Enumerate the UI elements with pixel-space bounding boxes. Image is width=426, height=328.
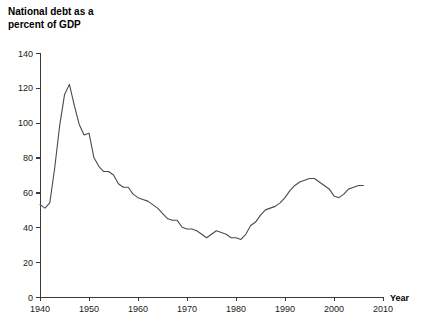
- x-tick-label-2000: 2000: [324, 304, 344, 314]
- y-tick-label-140: 140: [18, 49, 33, 59]
- debt-series-line: [40, 84, 363, 239]
- y-tick-label-0: 0: [28, 293, 33, 303]
- y-tick-label-20: 20: [23, 258, 33, 268]
- y-tick-label-80: 80: [23, 153, 33, 163]
- x-tick-label-1980: 1980: [226, 304, 246, 314]
- y-tick-label-60: 60: [23, 188, 33, 198]
- x-tick-label-1940: 1940: [30, 304, 50, 314]
- chart-figure: National debt as a percent of GDP 020406…: [0, 0, 426, 328]
- x-tick-label-1990: 1990: [275, 304, 295, 314]
- y-axis-tick-labels: 020406080100120140: [18, 49, 33, 303]
- x-tick-label-2010: 2010: [373, 304, 393, 314]
- x-tick-label-1950: 1950: [79, 304, 99, 314]
- x-axis-tick-labels: 19401950196019701980199020002010: [30, 304, 393, 314]
- y-tick-label-40: 40: [23, 223, 33, 233]
- line-chart-plot: 020406080100120140 194019501960197019801…: [0, 0, 426, 328]
- y-tick-label-100: 100: [18, 118, 33, 128]
- y-tick-label-120: 120: [18, 83, 33, 93]
- x-axis-title: Year: [390, 293, 410, 303]
- x-axis: 19401950196019701980199020002010 Year: [30, 293, 410, 314]
- y-axis: 020406080100120140: [18, 49, 41, 303]
- y-axis-ticks: [36, 54, 40, 298]
- x-tick-label-1970: 1970: [177, 304, 197, 314]
- x-tick-label-1960: 1960: [128, 304, 148, 314]
